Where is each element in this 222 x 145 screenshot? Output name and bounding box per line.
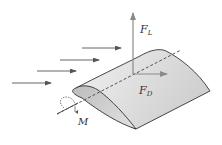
airfoil-diagram: FL FD M: [0, 0, 222, 145]
moment-arc-icon: [60, 97, 75, 108]
lift-label: FL: [139, 23, 153, 37]
moment-label: M: [77, 116, 89, 127]
